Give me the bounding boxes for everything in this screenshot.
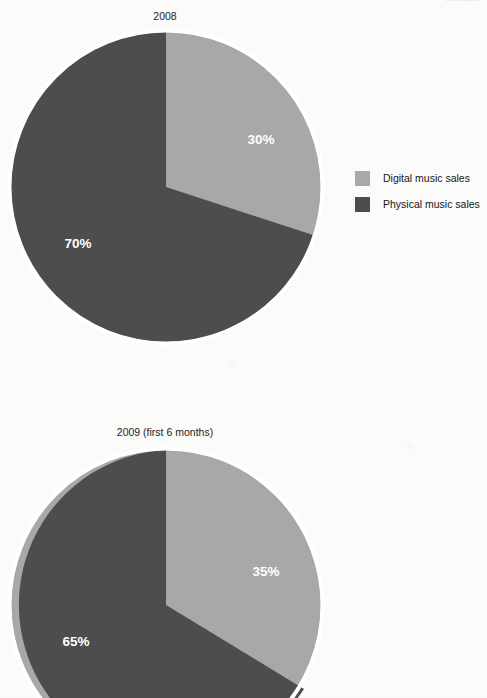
pie-slices [10, 31, 323, 344]
legend-swatch-physical-icon [355, 197, 370, 212]
chart-title: 2009 (first 6 months) [0, 425, 330, 439]
legend-item-digital[interactable]: Digital music sales [355, 166, 480, 190]
chart-page: ............. 2008 30% 70% Digital music… [0, 0, 487, 698]
pie-graphic-2009: 35% 65% [8, 448, 328, 698]
legend-label-digital: Digital music sales [383, 171, 470, 185]
legend-2008: Digital music sales Physical music sales [355, 166, 480, 218]
pie-svg: 30% 70% [8, 26, 328, 356]
pie-graphic-2008: 30% 70% [8, 26, 328, 356]
chart-title: 2008 [0, 9, 330, 23]
slice-label-digital: 30% [247, 132, 274, 147]
legend-label-physical: Physical music sales [383, 197, 480, 211]
slice-label-physical: 65% [62, 634, 89, 649]
pie-chart-2009: 2009 (first 6 months) 35% 65% Digital mu… [0, 411, 487, 698]
slice-label-physical: 70% [64, 236, 91, 251]
pie-chart-2008: 2008 30% 70% Digital music sales Physica… [0, 0, 487, 400]
legend-item-physical[interactable]: Physical music sales [355, 192, 480, 216]
pie-svg: 35% 65% [8, 448, 328, 698]
slice-label-digital: 35% [252, 564, 279, 579]
legend-swatch-digital-icon [355, 171, 370, 186]
